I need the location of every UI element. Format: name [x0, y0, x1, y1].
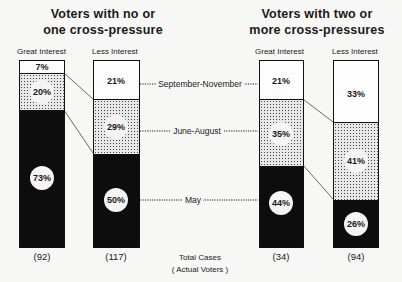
- bar2-count: (117): [105, 251, 126, 262]
- bar4-count: (94): [348, 251, 365, 262]
- bar3-jun-aug-value: 35%: [269, 122, 293, 146]
- bar2-sep-nov-value: 21%: [107, 76, 125, 86]
- label-june-august: June-August: [171, 126, 223, 136]
- total-line1: Total Cases: [160, 252, 240, 264]
- label-may: May: [183, 195, 203, 205]
- bar1-may-value: 73%: [30, 166, 54, 190]
- bar2-jun-aug-value: 29%: [104, 115, 128, 139]
- bar1-jun-aug-value: 20%: [30, 80, 54, 104]
- bar3-count: (34): [273, 251, 290, 262]
- label-september-november: September-November: [156, 79, 244, 89]
- bar4-may-value: 26%: [344, 212, 368, 236]
- bar3-sep-nov-value: 21%: [272, 76, 290, 86]
- bar2-may-value: 50%: [104, 188, 128, 212]
- total-line2: ( Actual Voters ): [160, 264, 240, 276]
- bar-great-interest-two-plus: [259, 60, 304, 248]
- bar1-count: (92): [34, 251, 51, 262]
- total-cases-caption: Total Cases ( Actual Voters ): [160, 252, 240, 276]
- bar3-may-value: 44%: [269, 191, 293, 215]
- bar1-sep-nov-value: 7%: [35, 62, 48, 72]
- bar-less-interest-no-one: [93, 60, 140, 248]
- bar4-sep-nov-value: 33%: [347, 89, 365, 99]
- bar4-jun-aug-value: 41%: [344, 149, 368, 173]
